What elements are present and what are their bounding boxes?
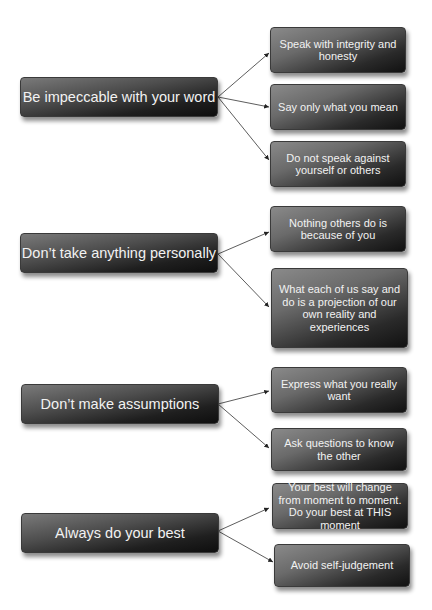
agreement-box-1[interactable]: Be impeccable with your word [20, 77, 218, 117]
agreement-label: Always do your best [55, 525, 185, 541]
detail-label: Avoid self-judgement [291, 559, 394, 572]
detail-label: Express what you really want [276, 378, 402, 403]
detail-box-1-1[interactable]: Speak with integrity and honesty [270, 27, 406, 73]
detail-box-4-1[interactable]: Your best will change from moment to mom… [272, 483, 408, 529]
detail-box-3-1[interactable]: Express what you really want [271, 367, 407, 413]
detail-box-4-2[interactable]: Avoid self-judgement [274, 544, 410, 587]
detail-label: Do not speak against yourself or others [275, 152, 401, 177]
detail-label: What each of us say and do is a projecti… [276, 283, 403, 333]
detail-label: Nothing others do is because of you [275, 217, 401, 242]
agreement-box-4[interactable]: Always do your best [21, 513, 219, 553]
detail-label: Your best will change from moment to mom… [277, 481, 403, 531]
detail-label: Ask questions to know the other [276, 437, 402, 462]
agreement-box-3[interactable]: Don’t make assumptions [21, 384, 219, 424]
detail-box-1-3[interactable]: Do not speak against yourself or others [270, 141, 406, 187]
agreement-label: Don’t take anything personally [22, 245, 216, 261]
agreement-label: Don’t make assumptions [41, 396, 200, 412]
detail-label: Speak with integrity and honesty [275, 38, 401, 63]
detail-box-2-1[interactable]: Nothing others do is because of you [270, 206, 406, 252]
detail-label: Say only what you mean [278, 101, 398, 114]
agreement-label: Be impeccable with your word [23, 89, 216, 105]
detail-box-1-2[interactable]: Say only what you mean [270, 84, 406, 130]
detail-box-2-2[interactable]: What each of us say and do is a projecti… [271, 268, 408, 348]
agreement-box-2[interactable]: Don’t take anything personally [20, 233, 218, 273]
detail-box-3-2[interactable]: Ask questions to know the other [271, 428, 407, 471]
